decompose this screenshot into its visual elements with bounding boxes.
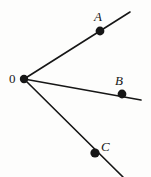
- ray-line-a: [24, 12, 130, 79]
- point-label-a: A: [94, 10, 102, 23]
- ray-group-a: [24, 12, 130, 79]
- point-dot-c: [90, 148, 99, 157]
- rays-canvas: [0, 0, 151, 177]
- origin-label: 0: [9, 72, 16, 85]
- geometry-figure: 0 A B C: [0, 0, 151, 177]
- point-dot-a: [96, 27, 105, 36]
- point-dot-b: [118, 90, 127, 99]
- origin-dot: [20, 75, 28, 83]
- point-label-b: B: [115, 74, 123, 87]
- point-label-c: C: [101, 140, 110, 153]
